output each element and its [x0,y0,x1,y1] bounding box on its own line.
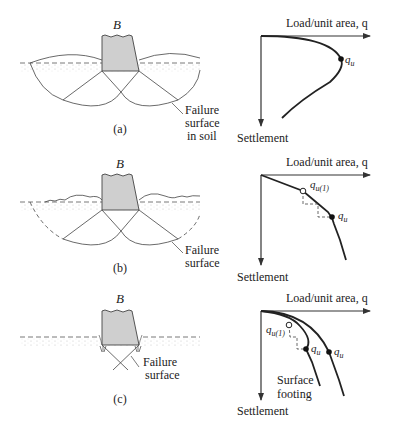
caption-a: (a) [113,122,126,136]
caption-b: (b) [113,261,127,275]
bearing-capacity-failure-diagram: B Failure surface in soil (a) Load/unit … [0,0,395,432]
failure-label-a-2: surface [185,116,220,130]
panel-b: B Failure surface (b) Load/unit area, q … [20,155,370,284]
surface-footing-label-1: Surface [277,373,314,387]
first-failure-load-point-b [300,188,306,194]
ultimate-load-point-b [329,214,335,220]
y-axis-label-b: Settlement [237,270,289,284]
qu-label-b: qu [338,209,348,224]
failure-label-b-1: Failure [185,243,219,257]
failure-label-b-2: surface [185,256,220,270]
first-failure-load-point-c [286,322,292,328]
panel-a: B Failure surface in soil (a) Load/unit … [20,16,370,145]
failure-label-c-1: Failure [143,355,177,369]
qu-label-c-inner: qu [311,342,321,357]
footing-width-label-c: B [116,291,124,306]
caption-c: (c) [113,392,126,406]
failure-label-a-1: Failure [185,103,219,117]
load-settlement-graph-b: Load/unit area, q Settlement qu(1) qu [237,155,370,284]
y-axis-label-a: Settlement [237,131,289,145]
failure-label-c-2: surface [145,368,180,382]
ultimate-load-point-c-inner [303,346,309,352]
failure-label-a-3: in soil [187,129,217,143]
soil-section-b [20,174,200,253]
ultimate-load-point-a [338,56,344,62]
footing-a [102,35,139,71]
load-settlement-graph-c: Load/unit area, q Settlement qu(1) qu qu… [237,291,370,418]
qu1-label-c: qu(1) [266,323,285,338]
ultimate-load-point-c-outer [326,349,332,355]
footing-b [102,174,139,210]
qu1-label-b: qu(1) [310,178,329,193]
footing-width-label-b: B [116,156,124,171]
qu-label-a: qu [345,53,355,68]
footing-c [102,310,139,345]
footing-width-label-a: B [113,17,121,32]
soil-section-a [20,35,200,114]
qu-label-c-outer: qu [334,345,344,360]
x-axis-label-a: Load/unit area, q [286,16,368,30]
load-settlement-graph-a: Load/unit area, q Settlement qu [237,16,370,145]
y-axis-label-c: Settlement [237,404,289,418]
panel-c: B Failure surface (c) Load/unit area, q … [20,291,370,418]
x-axis-label-b: Load/unit area, q [286,155,368,169]
surface-footing-label-2: footing [277,387,312,401]
x-axis-label-c: Load/unit area, q [286,291,368,305]
